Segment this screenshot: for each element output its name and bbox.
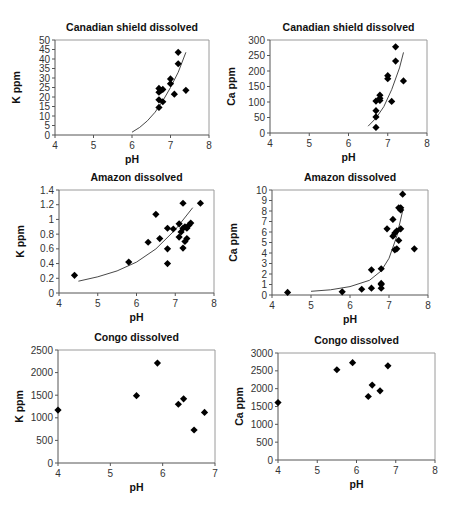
y-tick-label: 10 [39, 111, 51, 122]
y-tick-label: 500 [36, 435, 53, 446]
data-point [392, 57, 399, 64]
y-axis-label: Ca ppm [233, 387, 245, 426]
y-axis-label: Ca ppm [225, 67, 237, 106]
y-tick-label: 150 [248, 81, 265, 92]
data-point [333, 366, 340, 373]
data-point [133, 392, 140, 399]
x-tick-label: 8 [424, 138, 430, 149]
y-tick-label: 3000 [251, 348, 274, 359]
y-tick-label: 1 [261, 279, 267, 290]
chart-k-amazon: Amazon dissolved00.20.40.60.811.21.44567… [14, 171, 217, 323]
y-tick-label: 0.8 [40, 229, 54, 240]
data-point [180, 395, 187, 402]
trendline [78, 208, 192, 282]
trendline [368, 52, 403, 126]
y-axis-label: K ppm [13, 390, 25, 423]
data-point [389, 216, 396, 223]
x-tick-label: 4 [275, 465, 281, 476]
y-tick-label: 1500 [251, 401, 274, 412]
data-point [156, 235, 163, 242]
x-tick-label: 4 [269, 300, 275, 311]
data-point [175, 49, 182, 56]
x-tick-label: 5 [108, 468, 114, 479]
y-tick-label: 0.2 [40, 273, 54, 284]
plot-frame [272, 190, 428, 295]
data-point [190, 426, 197, 433]
x-tick-label: 6 [160, 468, 166, 479]
y-tick-label: 10 [256, 185, 268, 196]
data-point [167, 80, 174, 87]
data-point [411, 245, 418, 252]
y-tick-label: 5 [261, 237, 267, 248]
y-tick-label: 3 [261, 258, 267, 269]
y-tick-label: 35 [39, 63, 51, 74]
data-point [358, 286, 365, 293]
y-tick-label: 50 [254, 112, 266, 123]
data-point [201, 409, 208, 416]
x-tick-label: 5 [91, 140, 97, 151]
y-tick-label: 0.6 [40, 243, 54, 254]
chart-k-congo: Congo dissolved050010001500200025004567p… [13, 331, 218, 493]
data-point [400, 77, 407, 84]
y-tick-label: 30 [39, 73, 51, 84]
data-point [164, 245, 171, 252]
data-point [384, 362, 391, 369]
y-tick-label: 1000 [31, 412, 54, 423]
y-tick-label: 8 [261, 206, 267, 217]
x-tick-label: 6 [347, 300, 353, 311]
data-point [388, 98, 395, 105]
y-tick-label: 2000 [31, 367, 54, 378]
chart-k-canadian: Canadian shield dissolved051015202530354… [10, 21, 212, 165]
y-tick-label: 50 [39, 35, 51, 46]
x-tick-label: 5 [306, 138, 312, 149]
data-point [365, 393, 372, 400]
y-tick-label: 5 [44, 120, 50, 131]
y-axis-label: Ca ppm [227, 223, 239, 262]
y-tick-label: 4 [261, 248, 267, 259]
data-point [372, 124, 379, 131]
x-tick-label: 5 [95, 298, 101, 309]
data-point [274, 399, 281, 406]
y-tick-label: 2500 [251, 365, 274, 376]
y-tick-label: 1000 [251, 419, 274, 430]
data-point [170, 225, 177, 232]
y-axis-label: K ppm [10, 71, 22, 104]
chart-title: Amazon dissolved [304, 171, 396, 183]
y-tick-label: 0 [44, 130, 50, 141]
x-axis-label: pH [130, 481, 144, 493]
y-axis-label: K ppm [14, 225, 26, 258]
data-point [376, 387, 383, 394]
x-axis-label: pH [350, 478, 364, 490]
data-point [152, 211, 159, 218]
data-point [154, 360, 161, 367]
y-tick-label: 20 [39, 92, 51, 103]
y-tick-label: 1.4 [40, 185, 54, 196]
chart-ca-congo: Congo dissolved0500100015002000250030004… [233, 334, 438, 490]
data-point [197, 200, 204, 207]
data-point [368, 285, 375, 292]
chart-title: Congo dissolved [314, 334, 399, 346]
chart-ca-canadian: Canadian shield dissolved050100150200250… [225, 21, 430, 163]
x-tick-label: 6 [129, 140, 135, 151]
y-tick-label: 2500 [31, 345, 54, 356]
y-tick-label: 0 [48, 288, 54, 299]
data-point [369, 382, 376, 389]
x-tick-label: 7 [212, 468, 218, 479]
x-tick-label: 8 [432, 465, 438, 476]
data-point [179, 200, 186, 207]
x-tick-label: 7 [385, 138, 391, 149]
y-tick-label: 15 [39, 101, 51, 112]
x-tick-label: 8 [211, 298, 217, 309]
plot-frame [59, 190, 214, 293]
x-tick-label: 7 [393, 465, 399, 476]
plot-frame [278, 353, 435, 460]
data-point [372, 107, 379, 114]
y-tick-label: 0.4 [40, 258, 54, 269]
y-tick-label: 2000 [251, 383, 274, 394]
x-tick-label: 7 [168, 140, 174, 151]
x-tick-label: 5 [314, 465, 320, 476]
data-point [399, 191, 406, 198]
y-tick-label: 40 [39, 54, 51, 65]
x-tick-label: 6 [346, 138, 352, 149]
y-tick-label: 250 [248, 50, 265, 61]
